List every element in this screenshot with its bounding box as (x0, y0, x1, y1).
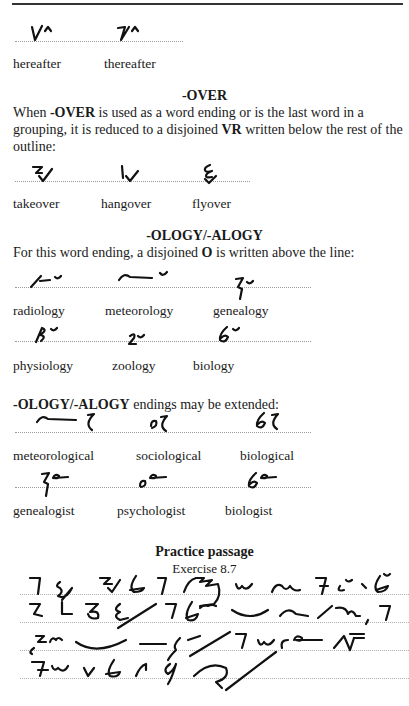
shorthand-outline-genealogy (232, 275, 262, 305)
example-word: radiology (13, 303, 65, 319)
example-word: thereafter (104, 56, 156, 72)
example-word: genealogy (213, 303, 268, 319)
example-word: biology (193, 358, 234, 374)
example-word: sociological (136, 448, 201, 464)
example-word: biological (240, 448, 294, 464)
shorthand-outline-psychologist (136, 470, 176, 494)
example-word: genealogist (13, 503, 74, 519)
shorthand-outline-biological (252, 410, 292, 436)
example-word: physiology (13, 358, 73, 374)
example-word: hangover (101, 196, 151, 212)
shorthand-outline-meteorology (116, 268, 176, 288)
shorthand-outline-zoology (126, 330, 156, 354)
shorthand-outline-thereafter (116, 24, 146, 44)
section-paragraph-over: When -OVER is used as a word ending or i… (13, 104, 405, 155)
section-heading-over: -OVER (0, 88, 409, 104)
example-word: zoology (112, 358, 156, 374)
example-word: psychologist (117, 503, 185, 519)
example-word: meteorological (13, 448, 94, 464)
top-rule (12, 3, 403, 5)
example-word: meteorology (105, 303, 173, 319)
shorthand-outline-physiology (32, 324, 66, 346)
shorthand-outline-flyover (198, 162, 228, 188)
shorthand-outline-biologist (244, 470, 284, 496)
example-word: flyover (192, 196, 231, 212)
example-word: biologist (225, 503, 272, 519)
shorthand-outline-biology (215, 324, 249, 346)
shorthand-outline-radiology (28, 268, 68, 290)
practice-passage-shorthand (0, 570, 409, 706)
section-paragraph-ology: For this word ending, a disjoined O is w… (13, 244, 405, 261)
practice-title: Practice passage (0, 544, 409, 560)
example-word: takeover (13, 196, 59, 212)
shorthand-outline-sociological (148, 412, 178, 436)
shorthand-outline-hereafter (30, 24, 60, 44)
shorthand-outline-genealogist (38, 470, 74, 502)
shorthand-outline-takeover (30, 164, 60, 186)
section-heading-ology: -OLOGY/-ALOGY (0, 228, 409, 244)
example-word: hereafter (13, 56, 61, 72)
shorthand-outline-hangover (118, 164, 148, 186)
shorthand-outline-meteorological (34, 410, 100, 436)
